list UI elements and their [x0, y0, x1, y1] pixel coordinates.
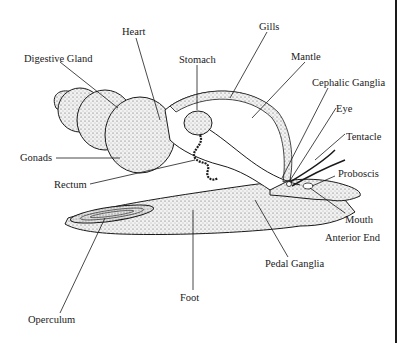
label-cephalic-ganglia: Cephalic Ganglia [312, 78, 385, 89]
tentacle-shape [290, 150, 335, 182]
label-digestive-gland: Digestive Gland [24, 54, 93, 65]
label-proboscis: Proboscis [338, 169, 379, 180]
label-mantle: Mantle [291, 52, 321, 63]
label-anterior-end: Anterior End [325, 233, 380, 244]
label-gills: Gills [259, 22, 279, 33]
shell-whorls [54, 88, 175, 173]
label-mouth: Mouth [345, 215, 373, 226]
label-tentacle: Tentacle [346, 132, 381, 143]
stomach-shape [184, 111, 212, 135]
right-border-line [395, 0, 397, 343]
label-eye: Eye [336, 104, 352, 115]
leader-lines [56, 32, 345, 313]
eye-shape [287, 182, 292, 187]
label-gonads: Gonads [20, 153, 52, 164]
label-heart: Heart [122, 27, 145, 38]
label-pedal-ganglia: Pedal Ganglia [265, 259, 324, 270]
label-rectum: Rectum [54, 180, 87, 191]
mouth-shape [303, 183, 313, 189]
label-foot: Foot [180, 293, 199, 304]
label-operculum: Operculum [28, 315, 75, 326]
label-stomach: Stomach [179, 55, 216, 66]
